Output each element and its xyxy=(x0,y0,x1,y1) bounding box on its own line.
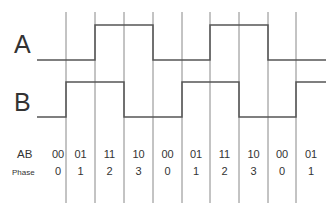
ab-value-cell: 01 xyxy=(74,148,86,160)
phase-value-cell: 0 xyxy=(164,165,170,177)
phase-value-cell: 0 xyxy=(279,165,285,177)
phase-dividers xyxy=(66,12,296,203)
phase-value-cell: 0 xyxy=(55,165,61,177)
phase-values-row: 0123012301 xyxy=(55,165,314,177)
phase-value-cell: 1 xyxy=(77,165,83,177)
quadrature-diagram: A B AB Phase 00011110000111100001 012301… xyxy=(0,0,336,220)
phase-row-label: Phase xyxy=(12,168,35,177)
phase-value-cell: 3 xyxy=(135,165,141,177)
ab-value-cell: 00 xyxy=(52,148,64,160)
ab-value-cell: 01 xyxy=(190,148,202,160)
ab-value-cell: 10 xyxy=(132,148,144,160)
ab-value-cell: 00 xyxy=(276,148,288,160)
phase-value-cell: 2 xyxy=(106,165,112,177)
phase-value-cell: 1 xyxy=(193,165,199,177)
ab-values-row: 00011110000111100001 xyxy=(52,148,317,160)
ab-row-label: AB xyxy=(17,148,33,160)
phase-value-cell: 1 xyxy=(308,165,314,177)
phase-value-cell: 2 xyxy=(221,165,227,177)
ab-value-cell: 11 xyxy=(219,148,230,160)
signal-a-label: A xyxy=(14,30,31,58)
ab-value-cell: 11 xyxy=(104,148,115,160)
ab-value-cell: 10 xyxy=(247,148,259,160)
ab-value-cell: 00 xyxy=(161,148,173,160)
signal-b-waveform xyxy=(37,82,326,117)
phase-value-cell: 3 xyxy=(250,165,256,177)
ab-value-cell: 01 xyxy=(305,148,317,160)
signal-b-label: B xyxy=(14,88,31,116)
